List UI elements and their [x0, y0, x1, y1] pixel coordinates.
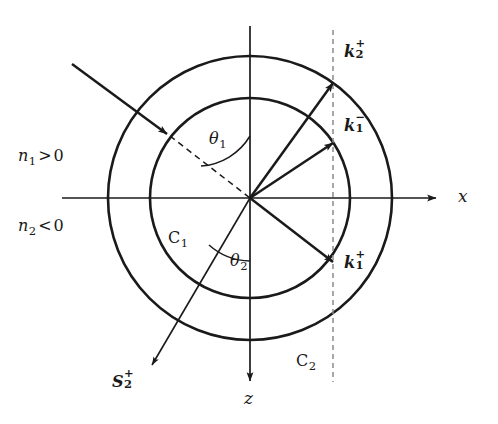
- S2plus-subscript: 2: [124, 379, 132, 391]
- vector-k1plus: [250, 198, 333, 262]
- theta1-glyph: θ: [209, 129, 219, 148]
- wavevector-diagram-figure: n1>0 n2<0 x z θ1 θ2 C1 C2 k+2 k−1 k+1 S+…: [0, 0, 498, 424]
- circle-C1-subscript: 1: [181, 236, 188, 250]
- label-z-axis: z: [244, 390, 253, 407]
- circle-C1-symbol: C: [168, 228, 180, 247]
- circle-C2-subscript: 2: [309, 359, 316, 373]
- theta2-glyph: θ: [230, 251, 240, 270]
- label-x-axis: x: [458, 188, 468, 205]
- k2plus-subscript: 2: [356, 49, 364, 61]
- label-upper-medium-index: n1>0: [18, 148, 64, 167]
- upper-medium-subscript: 1: [29, 154, 36, 168]
- k1minus-symbol: k: [344, 116, 355, 135]
- diagram-canvas: [0, 0, 498, 424]
- label-vector-k1minus: k−1: [344, 118, 355, 134]
- label-vector-S2plus: S+2: [112, 374, 124, 390]
- theta1-subscript: 1: [219, 137, 226, 151]
- label-vector-k1plus: k+1: [344, 255, 355, 271]
- k2plus-symbol: k: [344, 42, 355, 61]
- k1minus-subscript: 1: [356, 123, 364, 135]
- z-axis-text: z: [244, 388, 253, 408]
- k1plus-symbol: k: [344, 253, 355, 272]
- S2plus-symbol: S: [112, 372, 124, 391]
- label-theta1: θ1: [209, 131, 226, 150]
- upper-medium-symbol: n: [18, 146, 28, 165]
- upper-medium-value: 0: [54, 146, 64, 165]
- lower-medium-relation: <: [38, 216, 51, 235]
- k1plus-subscript: 1: [356, 260, 364, 272]
- label-lower-medium-index: n2<0: [18, 218, 64, 237]
- lower-medium-subscript: 2: [29, 224, 36, 238]
- label-vector-k2plus: k+2: [344, 44, 355, 60]
- label-circle-C1: C1: [168, 230, 188, 249]
- incident-ray-arrow: [72, 64, 167, 134]
- lower-medium-symbol: n: [18, 216, 28, 235]
- vector-k1minus: [250, 143, 333, 198]
- x-axis-text: x: [458, 186, 468, 206]
- label-theta2: θ2: [230, 253, 247, 272]
- lower-medium-value: 0: [54, 216, 64, 235]
- label-circle-C2: C2: [296, 353, 316, 372]
- theta2-subscript: 2: [240, 259, 247, 273]
- upper-medium-relation: >: [38, 146, 51, 165]
- circle-C2-symbol: C: [296, 351, 308, 370]
- vector-k2plus: [250, 83, 333, 198]
